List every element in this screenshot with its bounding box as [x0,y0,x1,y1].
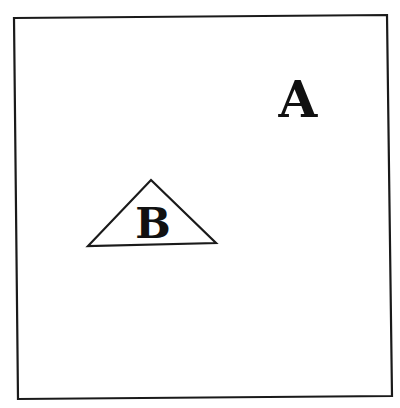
diagram-canvas: A B [0,0,400,408]
label-a: A [278,70,319,129]
label-b: B [135,199,171,248]
background [0,0,400,408]
